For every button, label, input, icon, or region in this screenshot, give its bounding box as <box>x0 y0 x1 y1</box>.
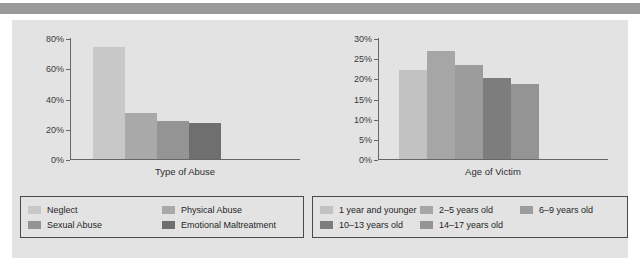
plot-area-left: 80%60%40%20%0% <box>70 38 300 160</box>
right-y-tick-mark <box>374 160 378 161</box>
right-bar <box>399 70 427 159</box>
right-legend-label: 2–5 years old <box>439 205 493 215</box>
right-legend-label: 1 year and younger <box>339 205 417 215</box>
left-legend-item[interactable]: Physical Abuse <box>162 202 296 217</box>
left-y-tick-label: 0% <box>51 155 64 165</box>
right-legend-label: 10–13 years old <box>339 220 403 230</box>
right-legend-label: 14–17 years old <box>439 220 503 230</box>
x-axis-right <box>378 159 608 160</box>
left-legend-swatch-icon <box>28 221 41 229</box>
right-y-tick-label: 25% <box>354 54 372 64</box>
left-legend-swatch-icon <box>162 206 175 214</box>
left-y-tick-mark <box>66 130 70 131</box>
right-y-tick-label: 15% <box>354 95 372 105</box>
right-legend-item[interactable]: 1 year and younger <box>320 202 420 217</box>
bar-group-left <box>93 38 221 159</box>
left-bar <box>189 123 221 159</box>
x-axis-title-right: Age of Victim <box>378 166 608 177</box>
top-gray-band <box>0 3 640 14</box>
right-y-tick-mark <box>374 39 378 40</box>
left-legend-swatch-icon <box>28 206 41 214</box>
right-bar <box>427 51 455 159</box>
left-y-tick-mark <box>66 160 70 161</box>
right-y-tick-label: 0% <box>359 155 372 165</box>
bar-group-right <box>399 38 539 159</box>
left-y-tick-mark <box>66 39 70 40</box>
left-legend-swatch-icon <box>162 221 175 229</box>
left-bar <box>157 121 189 159</box>
x-axis-left <box>70 159 300 160</box>
right-y-tick-mark <box>374 120 378 121</box>
plot-area-right: 30%25%20%15%10%5%0% <box>378 38 608 160</box>
right-legend-item[interactable]: 6–9 years old <box>520 202 620 217</box>
right-y-tick-mark <box>374 59 378 60</box>
left-legend-item[interactable]: Emotional Maltreatment <box>162 217 296 232</box>
right-bar <box>483 78 511 159</box>
legend-age-of-victim: 1 year and younger2–5 years old6–9 years… <box>312 196 628 238</box>
left-y-tick-mark <box>66 100 70 101</box>
right-legend-item[interactable]: 10–13 years old <box>320 217 420 232</box>
left-legend-label: Sexual Abuse <box>47 220 102 230</box>
right-y-tick-mark <box>374 140 378 141</box>
figure-root: 80%60%40%20%0% Type of Abuse 30%25%20%15… <box>0 0 640 271</box>
y-axis-left <box>70 38 71 160</box>
left-y-tick-label: 40% <box>46 95 64 105</box>
right-legend-swatch-icon <box>320 221 333 229</box>
right-legend-swatch-icon <box>520 206 533 214</box>
left-bar <box>93 47 125 159</box>
right-bar <box>455 65 483 159</box>
right-y-tick-label: 30% <box>354 34 372 44</box>
left-y-tick-label: 80% <box>46 34 64 44</box>
right-legend-item[interactable]: 14–17 years old <box>420 217 520 232</box>
figure-panel: 80%60%40%20%0% Type of Abuse 30%25%20%15… <box>12 20 628 258</box>
right-legend-item[interactable]: 2–5 years old <box>420 202 520 217</box>
chart-type-of-abuse: 80%60%40%20%0% Type of Abuse <box>20 20 320 192</box>
left-bar <box>125 113 157 159</box>
right-legend-label: 6–9 years old <box>539 205 593 215</box>
y-axis-right <box>378 38 379 160</box>
right-y-tick-label: 20% <box>354 74 372 84</box>
right-legend-swatch-icon <box>420 221 433 229</box>
left-legend-label: Neglect <box>47 205 78 215</box>
left-y-tick-mark <box>66 69 70 70</box>
right-y-tick-mark <box>374 79 378 80</box>
legend-type-of-abuse: NeglectPhysical AbuseSexual AbuseEmotion… <box>20 196 304 238</box>
x-axis-title-left: Type of Abuse <box>70 166 300 177</box>
chart-age-of-victim: 30%25%20%15%10%5%0% Age of Victim <box>328 20 628 192</box>
charts-row: 80%60%40%20%0% Type of Abuse 30%25%20%15… <box>12 20 628 192</box>
left-y-tick-label: 20% <box>46 125 64 135</box>
right-y-tick-label: 10% <box>354 115 372 125</box>
right-y-tick-label: 5% <box>359 135 372 145</box>
right-legend-swatch-icon <box>320 206 333 214</box>
right-bar <box>511 84 539 159</box>
left-legend-label: Physical Abuse <box>181 205 242 215</box>
left-y-tick-label: 60% <box>46 64 64 74</box>
right-y-tick-mark <box>374 100 378 101</box>
legend-row: NeglectPhysical AbuseSexual AbuseEmotion… <box>12 196 628 242</box>
left-legend-item[interactable]: Sexual Abuse <box>28 217 162 232</box>
right-legend-swatch-icon <box>420 206 433 214</box>
left-legend-item[interactable]: Neglect <box>28 202 162 217</box>
left-legend-label: Emotional Maltreatment <box>181 220 276 230</box>
